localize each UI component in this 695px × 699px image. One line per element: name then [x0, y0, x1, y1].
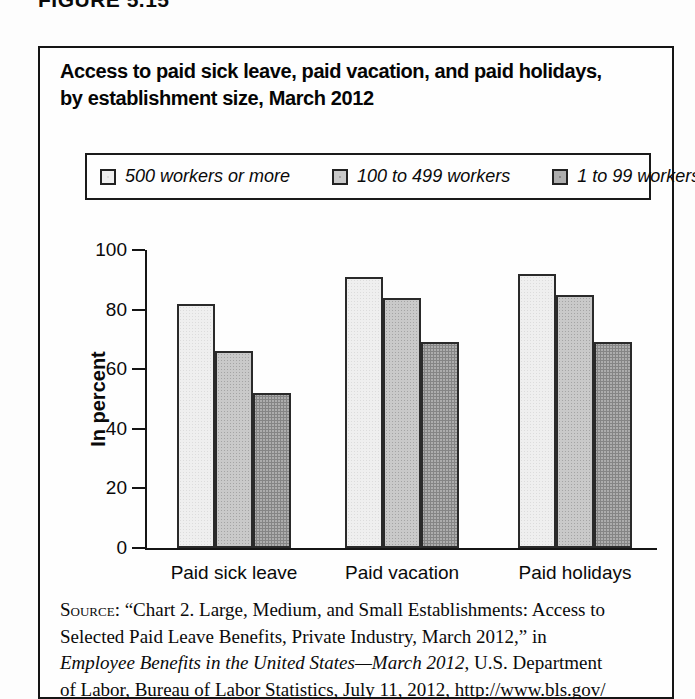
source-line-3: Employee Benefits in the United States—M… — [60, 650, 660, 677]
y-tick-label-40: 40 — [87, 418, 127, 440]
y-tick-mark — [132, 249, 145, 251]
source-text: , U.S. Department — [465, 652, 603, 673]
figure-frame: Access to paid sick leave, paid vacation… — [38, 46, 674, 699]
source-text: Selected Paid Leave Benefits, Private In… — [60, 626, 547, 647]
bar-paid-vacation-series-1 — [383, 298, 421, 548]
source-text: of Labor, Bureau of Labor Statistics, Ju… — [60, 679, 606, 699]
bar-paid-vacation-series-0 — [345, 277, 383, 548]
legend-swatch-light-icon — [100, 169, 116, 185]
legend-swatch-medium-icon — [332, 169, 348, 185]
figure-label: FIGURE 5.15 — [38, 0, 170, 12]
y-tick-label-0: 0 — [87, 537, 127, 559]
bar-paid-sick-leave-series-2 — [253, 393, 291, 548]
legend-item-500-or-more: 500 workers or more — [100, 166, 290, 187]
y-tick-mark — [132, 428, 145, 430]
x-category-label-paid-vacation: Paid vacation — [345, 562, 459, 584]
bar-paid-sick-leave-series-0 — [177, 304, 215, 548]
legend-label: 500 workers or more — [125, 166, 290, 187]
chart-title: Access to paid sick leave, paid vacation… — [60, 58, 656, 112]
y-tick-label-20: 20 — [87, 477, 127, 499]
source-line-2: Selected Paid Leave Benefits, Private In… — [60, 624, 660, 651]
legend-label: 1 to 99 workers — [577, 166, 695, 187]
legend-label: 100 to 499 workers — [357, 166, 510, 187]
x-category-label-paid-holidays: Paid holidays — [518, 562, 631, 584]
y-tick-mark — [132, 309, 145, 311]
source-line-4: of Labor, Bureau of Labor Statistics, Ju… — [60, 677, 660, 699]
chart-title-line1: Access to paid sick leave, paid vacation… — [60, 58, 656, 85]
legend-item-1-to-99: 1 to 99 workers — [552, 166, 695, 187]
y-tick-mark — [132, 368, 145, 370]
plot-area: In percent 020406080100Paid sick leavePa… — [145, 250, 657, 550]
legend-swatch-dark-icon — [552, 169, 568, 185]
source-text: Source: — [60, 599, 120, 620]
source-text: “Chart 2. Large, Medium, and Small Estab… — [120, 599, 605, 620]
bar-paid-holidays-series-2 — [594, 342, 632, 548]
y-tick-mark — [132, 487, 145, 489]
y-tick-label-100: 100 — [87, 239, 127, 261]
y-tick-label-80: 80 — [87, 299, 127, 321]
source-publication-title: Employee Benefits in the United States—M… — [60, 652, 465, 673]
legend-item-100-to-499: 100 to 499 workers — [332, 166, 510, 187]
bar-paid-vacation-series-2 — [421, 342, 459, 548]
source-note: Source: “Chart 2. Large, Medium, and Sma… — [60, 597, 660, 699]
y-tick-mark — [132, 547, 145, 549]
source-line-1: Source: “Chart 2. Large, Medium, and Sma… — [60, 597, 660, 624]
legend: 500 workers or more 100 to 499 workers 1… — [85, 153, 651, 200]
y-tick-label-60: 60 — [87, 358, 127, 380]
chart-title-line2: by establishment size, March 2012 — [60, 85, 656, 112]
bar-paid-holidays-series-0 — [518, 274, 556, 548]
bar-paid-sick-leave-series-1 — [215, 351, 253, 548]
x-category-label-paid-sick-leave: Paid sick leave — [171, 562, 298, 584]
bar-paid-holidays-series-1 — [556, 295, 594, 548]
